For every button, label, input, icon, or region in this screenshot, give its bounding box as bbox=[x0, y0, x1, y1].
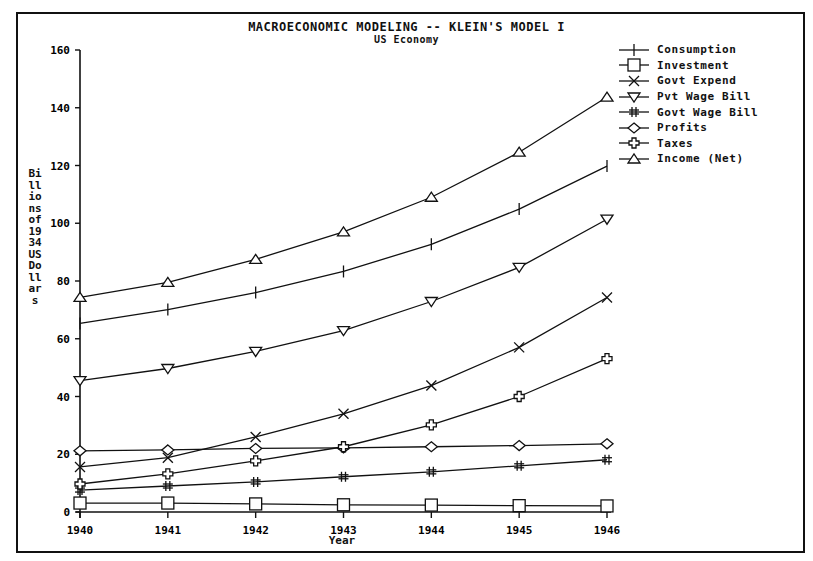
legend-label: Investment bbox=[657, 59, 729, 72]
legend-item: Taxes bbox=[617, 136, 758, 152]
legend-item: Govt Wage Bill bbox=[617, 104, 758, 120]
hash-marker-icon bbox=[617, 105, 651, 119]
legend-label: Profits bbox=[657, 121, 708, 134]
y-tick-label: 20 bbox=[57, 448, 70, 461]
diamond-marker-icon bbox=[617, 121, 651, 135]
plus-marker-icon bbox=[617, 43, 651, 57]
legend-item: Income (Net) bbox=[617, 151, 758, 167]
square-marker-icon bbox=[617, 58, 651, 72]
legend-item: Profits bbox=[617, 120, 758, 136]
legend: ConsumptionInvestmentGovt ExpendPvt Wage… bbox=[617, 42, 758, 167]
series-taxes bbox=[75, 354, 612, 489]
y-tick-label: 160 bbox=[50, 44, 70, 57]
y-tick-label: 80 bbox=[57, 275, 70, 288]
legend-label: Govt Wage Bill bbox=[657, 106, 758, 119]
cross-circle-marker-icon bbox=[617, 136, 651, 150]
legend-label: Consumption bbox=[657, 43, 736, 56]
triangle-up-marker-icon bbox=[617, 152, 651, 166]
legend-item: Consumption bbox=[617, 42, 758, 58]
legend-label: Govt Expend bbox=[657, 74, 736, 87]
series-consumption bbox=[80, 160, 607, 329]
y-tick-label: 100 bbox=[50, 217, 70, 230]
series-pvt-wage-bill bbox=[74, 215, 613, 385]
y-tick-label: 120 bbox=[50, 160, 70, 173]
legend-label: Income (Net) bbox=[657, 152, 744, 165]
y-tick-label: 60 bbox=[57, 333, 70, 346]
y-tick-label: 0 bbox=[63, 506, 70, 519]
legend-item: Investment bbox=[617, 58, 758, 74]
legend-item: Govt Expend bbox=[617, 73, 758, 89]
y-tick-label: 140 bbox=[50, 102, 70, 115]
triangle-down-marker-icon bbox=[617, 90, 651, 104]
legend-label: Taxes bbox=[657, 137, 693, 150]
legend-item: Pvt Wage Bill bbox=[617, 89, 758, 105]
x-marker-icon bbox=[617, 74, 651, 88]
y-tick-label: 40 bbox=[57, 391, 70, 404]
x-axis-label: Year bbox=[0, 534, 684, 547]
series-investment bbox=[74, 497, 613, 512]
legend-label: Pvt Wage Bill bbox=[657, 90, 751, 103]
